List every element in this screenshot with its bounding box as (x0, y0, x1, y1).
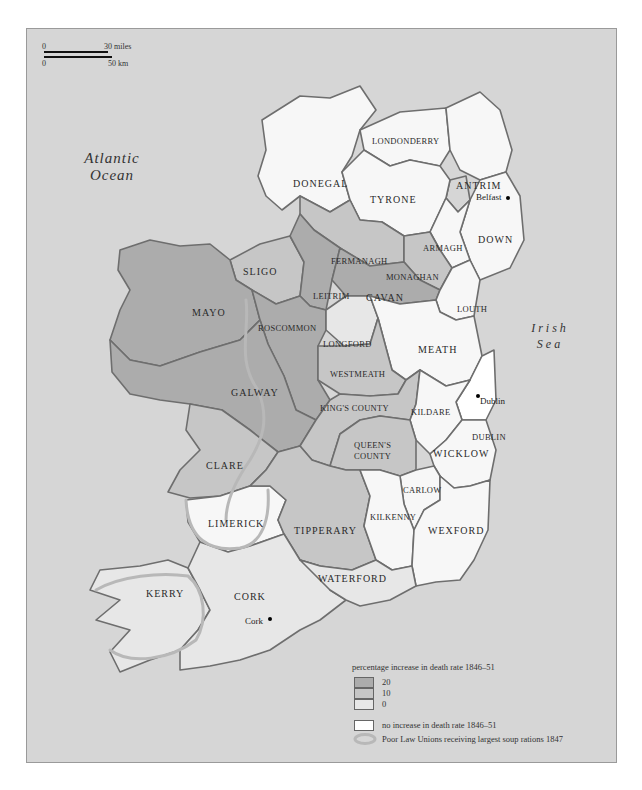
legend-soup: Poor Law Unions receiving largest soup r… (382, 734, 563, 744)
label-louth: LOUTH (457, 304, 487, 314)
town-cork: Cork (245, 616, 263, 626)
scale-miles-label: 30 miles (104, 42, 131, 51)
irish-line1: Irish (520, 320, 580, 336)
label-clare: CLARE (206, 460, 244, 471)
label-kerry: KERRY (146, 588, 184, 599)
label-kilkenny: KILKENNY (370, 512, 416, 522)
label-meath: MEATH (418, 344, 457, 355)
label-armagh: ARMAGH (423, 243, 463, 253)
label-kings-county: KING'S COUNTY (320, 403, 389, 413)
label-monaghan: MONAGHAN (386, 272, 439, 282)
atlantic-line2: Ocean (62, 167, 162, 184)
legend-level-20: 20 (382, 677, 391, 687)
scale-zero-km: 0 (42, 59, 46, 68)
legend-level-10: 10 (382, 688, 391, 698)
town-dublin: Dublin (480, 396, 505, 406)
legend-no-increase: no increase in death rate 1846–51 (382, 720, 496, 730)
label-londonderry: LONDONDERRY (372, 136, 440, 146)
label-galway: GALWAY (231, 387, 279, 398)
atlantic-line1: Atlantic (62, 150, 162, 167)
label-longford: LONGFORD (323, 339, 372, 349)
legend-swatch-20 (354, 677, 374, 688)
label-cork: CORK (234, 591, 266, 602)
label-cavan: CAVAN (366, 292, 404, 303)
legend-swatch-no-increase (354, 720, 374, 731)
label-donegal: DONEGAL (293, 178, 348, 189)
label-down: DOWN (478, 234, 513, 245)
queens-line1: QUEEN'S (354, 440, 391, 451)
label-sligo: SLIGO (243, 266, 277, 277)
label-waterford: WATERFORD (318, 573, 387, 584)
scale-zero-miles: 0 (42, 42, 46, 51)
label-antrim: ANTRIM (456, 180, 501, 191)
label-tyrone: TYRONE (370, 194, 417, 205)
atlantic-ocean-label: Atlantic Ocean (62, 150, 162, 184)
label-roscommon: ROSCOMMON (258, 323, 316, 333)
label-westmeath: WESTMEATH (330, 369, 385, 379)
irish-sea-label: Irish Sea (520, 320, 580, 352)
label-limerick: LIMERICK (208, 518, 264, 529)
label-wicklow: WICKLOW (433, 448, 489, 459)
label-wexford: WEXFORD (428, 525, 484, 536)
label-dublin: DUBLIN (472, 432, 506, 442)
belfast-dot-icon (506, 196, 510, 200)
label-mayo: MAYO (192, 307, 226, 318)
label-fermanagh: FERMANAGH (331, 256, 388, 266)
cork-dot-icon (268, 617, 272, 621)
town-belfast: Belfast (476, 192, 502, 202)
legend-title: percentage increase in death rate 1846–5… (352, 662, 495, 672)
scale-km-bar (44, 56, 112, 58)
ireland-map (0, 0, 642, 790)
legend-swatch-10 (354, 688, 374, 699)
label-kildare: KILDARE (411, 407, 450, 417)
scale-bar: 0 30 miles 0 50 km (40, 42, 160, 72)
legend-level-0: 0 (382, 699, 386, 709)
irish-line2: Sea (520, 336, 580, 352)
label-carlow: CARLOW (403, 485, 442, 495)
label-leitrim: LEITRIM (313, 291, 350, 301)
label-tipperary: TIPPERARY (294, 525, 357, 536)
scale-miles-bar (44, 51, 108, 53)
county-antrim (446, 92, 512, 180)
soup-outline-icon (352, 732, 378, 746)
label-queens-county: QUEEN'S COUNTY (354, 440, 391, 462)
queens-line2: COUNTY (354, 451, 391, 462)
legend-swatch-0 (354, 699, 374, 710)
scale-km-label: 50 km (108, 59, 128, 68)
